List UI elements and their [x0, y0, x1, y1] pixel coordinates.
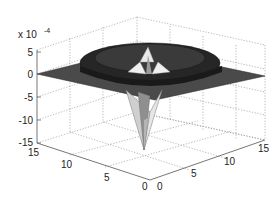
z-axis: x 10 -4 5 0 -5 -10 -15: [18, 27, 50, 148]
y-axis: 15 10 5 0: [28, 147, 148, 192]
x-axis: 0 5 10 15: [157, 143, 270, 192]
x-tick: 10: [224, 156, 236, 167]
z-tick: 0: [27, 69, 33, 80]
y-tick: 15: [28, 147, 40, 158]
y-tick: 0: [142, 181, 148, 192]
z-tick: 5: [27, 47, 33, 58]
y-tick: 10: [61, 159, 73, 170]
surface-plot: x 10 -4 5 0 -5 -10 -15 15 10 5 0 0 5 10 …: [0, 0, 277, 200]
x-tick: 15: [258, 143, 270, 154]
z-tick: -5: [24, 92, 33, 103]
z-tick: -10: [19, 115, 34, 126]
surface: [37, 43, 265, 150]
x-tick: 5: [191, 168, 197, 179]
y-tick: 5: [104, 172, 110, 183]
x-tick: 0: [157, 181, 163, 192]
z-scale-exponent: -4: [44, 27, 50, 34]
z-scale-label: x 10: [18, 29, 37, 40]
